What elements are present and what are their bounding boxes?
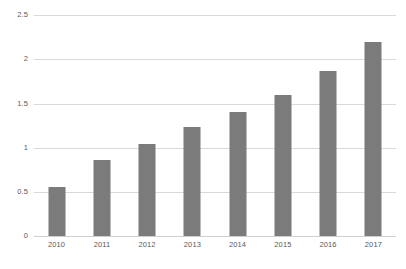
x-axis-tick-label: 2013 xyxy=(184,241,201,249)
bar-2012[interactable] xyxy=(139,144,156,236)
x-axis-tick-label: 2015 xyxy=(274,241,291,249)
bar-slot xyxy=(125,15,170,236)
bar-slot xyxy=(351,15,396,236)
x-axis-tick-label: 2014 xyxy=(229,241,246,249)
bar-2011[interactable] xyxy=(93,160,110,236)
x-axis-tick-label: 2010 xyxy=(48,241,65,249)
y-axis-tick-label: 0.5 xyxy=(2,188,28,196)
x-axis-tick-label: 2011 xyxy=(94,241,111,249)
y-axis-tick-label: 1 xyxy=(2,144,28,152)
bar-2017[interactable] xyxy=(365,42,382,237)
bars-layer xyxy=(34,15,396,236)
y-axis-tick-label: 0 xyxy=(2,232,28,240)
bar-slot xyxy=(215,15,260,236)
bar-2016[interactable] xyxy=(320,71,337,236)
bar-2014[interactable] xyxy=(229,112,246,236)
bar-2010[interactable] xyxy=(48,187,65,236)
bar-slot xyxy=(260,15,305,236)
bar-slot xyxy=(170,15,215,236)
bar-slot xyxy=(34,15,79,236)
bar-slot xyxy=(306,15,351,236)
axis-baseline xyxy=(34,236,396,237)
y-axis-tick-label: 2.5 xyxy=(2,11,28,19)
bar-chart: 2.5 2 1.5 1 0.5 0 2010 2011 2012 xyxy=(0,0,406,269)
x-axis-tick-label: 2016 xyxy=(320,241,337,249)
bar-2015[interactable] xyxy=(274,95,291,236)
x-axis-tick-label: 2017 xyxy=(365,241,382,249)
y-axis-tick-label: 2 xyxy=(2,55,28,63)
y-axis-tick-label: 1.5 xyxy=(2,100,28,108)
bar-slot xyxy=(79,15,124,236)
bar-2013[interactable] xyxy=(184,127,201,236)
x-axis-tick-label: 2012 xyxy=(139,241,156,249)
